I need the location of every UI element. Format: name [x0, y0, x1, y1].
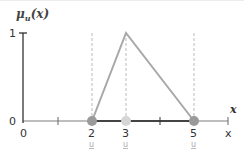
membership-triangle: [92, 33, 194, 121]
membership-chart: μu(x) 1 0 0 2 3 5 x u u u x: [0, 0, 244, 152]
y-tick-label-0: 0: [9, 115, 16, 128]
marker-3: [121, 116, 131, 126]
x-variable-label: x: [229, 103, 237, 116]
marker-5: [189, 116, 199, 126]
x-sub-label-2: u: [89, 140, 94, 149]
x-axis-end-label: x: [225, 127, 232, 140]
x-sub-label-5: u: [191, 140, 196, 149]
x-tick-label-3: 3: [122, 127, 129, 140]
x-tick-label-0: 0: [20, 127, 27, 140]
x-tick-label-5: 5: [190, 127, 197, 140]
y-tick-label-1: 1: [9, 27, 16, 40]
marker-2: [87, 116, 97, 126]
x-tick-label-2: 2: [88, 127, 95, 140]
y-axis-label: μu(x): [16, 7, 49, 23]
x-sub-label-3: u: [123, 140, 128, 149]
